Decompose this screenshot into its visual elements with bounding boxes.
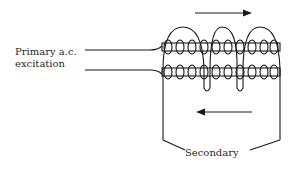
primary-label-line1: Primary a.c.	[15, 46, 77, 58]
secondary-bracket-right	[250, 140, 280, 150]
secondary-bracket-left	[163, 140, 185, 150]
lower-core-rod	[162, 68, 280, 76]
primary-lead-top	[85, 46, 162, 50]
primary-lead-bottom	[85, 70, 162, 74]
transformer-winding-diagram: Primary a.c. excitation Secondary	[0, 0, 295, 169]
bottom-arrow-left-icon	[196, 109, 205, 116]
top-arrow-right-icon	[243, 10, 252, 17]
upper-core-rod	[162, 43, 280, 51]
secondary-label: Secondary	[185, 147, 239, 159]
primary-label-line2: excitation	[15, 58, 77, 70]
winding-svg	[0, 0, 295, 169]
primary-excitation-label: Primary a.c. excitation	[15, 46, 77, 70]
